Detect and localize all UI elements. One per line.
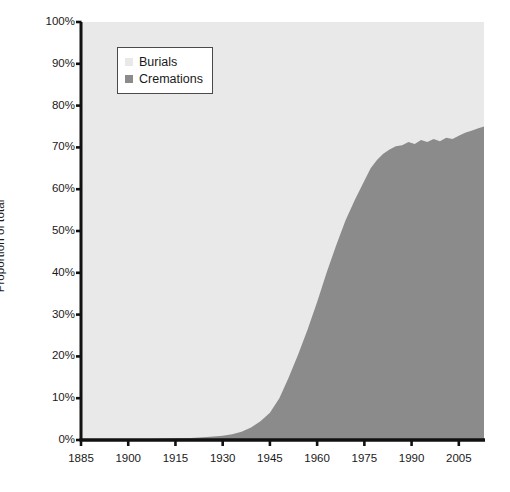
- y-tick-label: 30%: [31, 309, 75, 321]
- y-tick-label: 60%: [31, 183, 75, 195]
- x-tick-label: 1915: [163, 452, 189, 464]
- x-tick-label: 1945: [257, 452, 283, 464]
- y-axis-tick-labels: 100%90%80%70%60%50%40%30%20%10%0%: [30, 0, 75, 492]
- x-tick-label: 1960: [304, 452, 330, 464]
- x-tick-label: 1900: [115, 452, 141, 464]
- y-tick-label: 50%: [31, 225, 75, 237]
- x-tick-label: 1930: [210, 452, 236, 464]
- legend-swatch-cremations: [125, 75, 133, 83]
- legend-item-burials: Burials: [125, 53, 203, 70]
- x-axis-ticks: [81, 439, 459, 446]
- y-tick-label: 0%: [31, 434, 75, 446]
- x-tick-label: 1885: [68, 452, 94, 464]
- legend-label-cremations: Cremations: [139, 72, 203, 86]
- chart-legend: Burials Cremations: [117, 47, 213, 94]
- legend-label-burials: Burials: [139, 55, 177, 69]
- x-tick-label: 1990: [399, 452, 425, 464]
- y-tick-label: 80%: [31, 100, 75, 112]
- x-axis-tick-labels: 188519001915193019451960197519902005: [0, 452, 510, 472]
- legend-item-cremations: Cremations: [125, 70, 203, 87]
- y-tick-label: 70%: [31, 141, 75, 153]
- chart-container: Proportion of total 100%90%80%70%60%50%4…: [0, 0, 510, 492]
- y-tick-label: 90%: [31, 58, 75, 70]
- y-tick-label: 20%: [31, 350, 75, 362]
- y-tick-label: 100%: [31, 16, 75, 28]
- legend-swatch-burials: [125, 58, 133, 66]
- y-tick-label: 40%: [31, 267, 75, 279]
- y-tick-label: 10%: [31, 392, 75, 404]
- x-tick-label: 2005: [446, 452, 472, 464]
- x-tick-label: 1975: [352, 452, 378, 464]
